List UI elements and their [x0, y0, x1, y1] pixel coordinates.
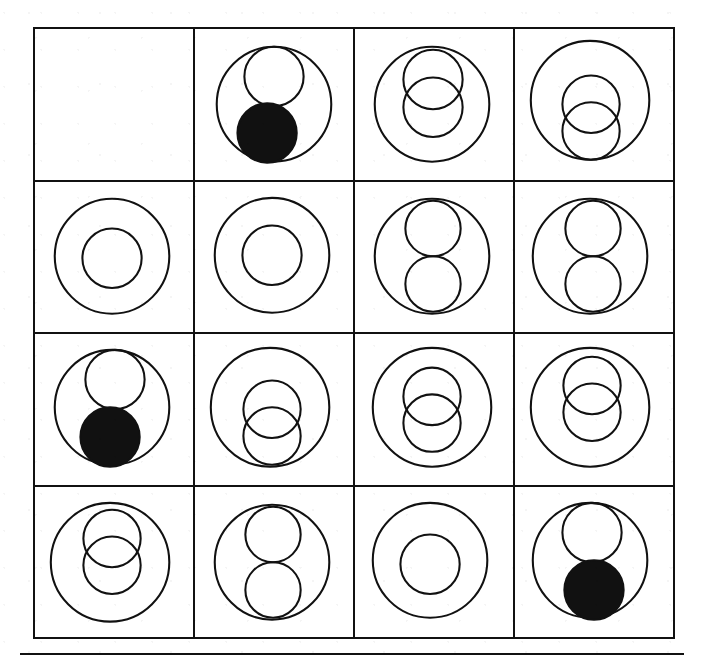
outer-circle-outline	[51, 502, 170, 621]
inner-circle-outline-2	[405, 256, 460, 311]
inner-circle-filled-2	[237, 103, 296, 162]
matrix-cell-r4c4[interactable]	[515, 487, 675, 640]
inner-circle-outline-1	[244, 47, 303, 106]
inner-circle-filled-2	[564, 560, 623, 619]
cell-figure-r2c1	[35, 182, 193, 333]
inner-circle-outline-1	[245, 506, 300, 561]
matrix-cell-r3c2[interactable]	[195, 334, 355, 487]
outer-circle-outline	[531, 41, 650, 160]
matrix-cell-r3c4[interactable]	[515, 334, 675, 487]
cell-figure-r2c3	[355, 182, 513, 333]
matrix-cell-r1c4[interactable]	[515, 29, 675, 182]
cell-figure-r4c2	[195, 487, 353, 638]
cell-figure-r2c4	[515, 182, 673, 333]
inner-circle-outline-1	[403, 368, 460, 425]
matrix-cell-r2c4[interactable]	[515, 182, 675, 335]
inner-circle-outline-1	[82, 228, 141, 287]
cell-figure-r3c3	[355, 334, 513, 485]
matrix-cell-r1c1[interactable]	[35, 29, 195, 182]
inner-circle-outline-2	[562, 102, 619, 159]
outer-circle-outline	[373, 348, 492, 467]
inner-circle-outline-2	[565, 256, 620, 311]
cell-figure-r4c3	[355, 487, 513, 638]
inner-circle-outline-1	[562, 502, 621, 561]
matrix-cell-r3c3[interactable]	[355, 334, 515, 487]
inner-circle-outline-1	[83, 509, 140, 566]
horizontal-divider-rule	[20, 653, 684, 655]
circle-matrix-figure	[0, 0, 704, 667]
matrix-cell-r2c1[interactable]	[35, 182, 195, 335]
inner-circle-outline-1	[400, 534, 459, 593]
cell-figure-r3c4	[515, 334, 673, 485]
inner-circle-outline-1	[565, 200, 620, 255]
matrix-cell-r4c3[interactable]	[355, 487, 515, 640]
cell-figure-r3c1	[35, 334, 193, 485]
inner-circle-outline-1	[242, 225, 301, 284]
inner-circle-outline-1	[85, 350, 144, 409]
inner-circle-outline-1	[243, 381, 300, 438]
outer-circle-outline	[531, 348, 650, 467]
matrix-grid	[33, 27, 675, 639]
outer-circle-outline	[373, 502, 488, 617]
cell-figure-r3c2	[195, 334, 353, 485]
matrix-cell-r2c2[interactable]	[195, 182, 355, 335]
matrix-cell-r4c2[interactable]	[195, 487, 355, 640]
outer-circle-outline	[375, 47, 490, 162]
matrix-cell-r3c1[interactable]	[35, 334, 195, 487]
outer-circle-outline	[55, 198, 170, 313]
matrix-cell-r4c1[interactable]	[35, 487, 195, 640]
inner-circle-outline-2	[403, 394, 460, 451]
matrix-cell-r2c3[interactable]	[355, 182, 515, 335]
cell-figure-r1c2	[195, 29, 353, 180]
inner-circle-outline-1	[562, 76, 619, 133]
inner-circle-outline-2	[83, 536, 140, 593]
inner-circle-filled-2	[80, 407, 139, 466]
matrix-cell-r1c2[interactable]	[195, 29, 355, 182]
cell-figure-r2c2	[195, 182, 353, 333]
outer-circle-outline	[215, 197, 330, 312]
cell-figure-r1c4	[515, 29, 673, 180]
inner-circle-outline-2	[245, 562, 300, 617]
cell-figure-r4c4	[515, 487, 673, 638]
inner-circle-outline-1	[403, 50, 462, 109]
inner-circle-outline-1	[563, 357, 620, 414]
inner-circle-outline-2	[403, 78, 462, 137]
cell-figure-r1c3	[355, 29, 513, 180]
inner-circle-outline-2	[563, 384, 620, 441]
inner-circle-outline-2	[243, 407, 300, 464]
matrix-cell-r1c3[interactable]	[355, 29, 515, 182]
inner-circle-outline-1	[405, 200, 460, 255]
cell-figure-r4c1	[35, 487, 193, 638]
